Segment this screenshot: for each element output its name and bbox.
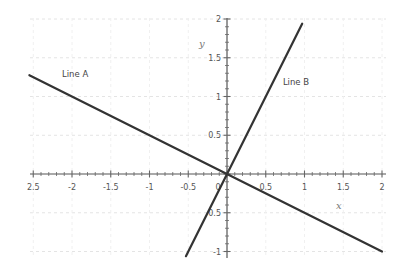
x-tick-label: 1.5 — [337, 183, 350, 192]
y-tick-label: 2 — [216, 15, 221, 24]
y-axis-title: y — [198, 38, 205, 49]
x-tick-label: 2.5 — [27, 183, 40, 192]
series-line-a — [29, 75, 382, 251]
annotation-line-a: Line A — [62, 69, 88, 79]
x-tick-label: -1.5 — [103, 183, 119, 192]
x-tick-label: -2 — [68, 183, 76, 192]
x-tick-label: 2 — [379, 183, 384, 192]
y-tick-labels: -10.50.511.52 — [208, 15, 221, 257]
y-tick-label: 1.5 — [208, 54, 221, 63]
x-tick-labels: 2.5-2-1.5-1-0.500.511.52 — [27, 183, 385, 192]
y-tick-label: 0.5 — [208, 131, 221, 140]
x-tick-label: 1 — [302, 183, 307, 192]
y-tick-label: 1 — [216, 93, 221, 102]
x-tick-label: -1 — [146, 183, 154, 192]
x-tick-label: -0.5 — [180, 183, 196, 192]
series-line-b — [186, 24, 302, 257]
y-tick-label: -1 — [213, 248, 221, 257]
line-chart: 2.5-2-1.5-1-0.500.511.52 -10.50.511.52 L… — [0, 0, 401, 280]
x-axis-title: x — [336, 200, 342, 211]
series-lines — [29, 24, 382, 257]
annotation-line-b: Line B — [283, 77, 309, 87]
